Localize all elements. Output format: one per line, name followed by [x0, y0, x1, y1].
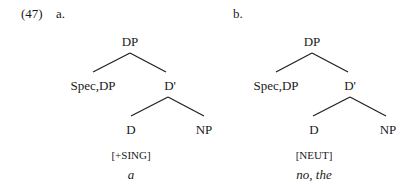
branch-a-dp-dbar [130, 53, 166, 72]
branch-b-dbar-d [313, 97, 350, 116]
branch-a-dbar-d [131, 97, 168, 116]
branch-a-dp-spec [93, 53, 130, 72]
tree-branches [0, 0, 411, 184]
branch-a-dbar-np [168, 97, 204, 116]
branch-b-dbar-np [350, 97, 386, 116]
branch-b-dp-spec [276, 53, 312, 72]
branch-b-dp-dbar [312, 53, 348, 72]
